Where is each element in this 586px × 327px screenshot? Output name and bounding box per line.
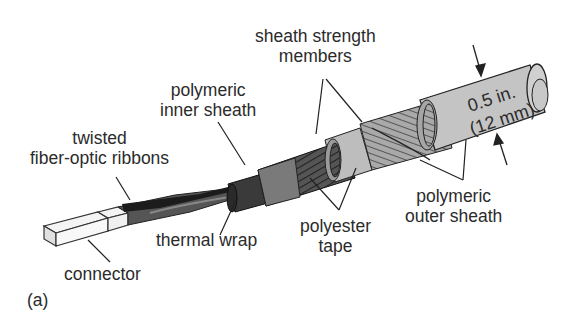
- outer-sheath-shape: 0.5 in. (12 mm): [417, 64, 548, 150]
- label-twisted-ribbons: twisted fiber-optic ribbons: [30, 128, 169, 168]
- label-thermal-wrap: thermal wrap: [156, 230, 257, 250]
- label-polymeric-inner-sheath: polymeric inner sheath: [160, 80, 256, 120]
- twisted-ribbons-shape: [118, 186, 236, 225]
- label-sheath-strength-members: sheath strength members: [255, 26, 376, 66]
- label-connector: connector: [64, 264, 141, 284]
- panel-label: (a): [27, 290, 48, 311]
- connector-shape: [44, 207, 128, 246]
- label-polyester-tape: polyester tape: [300, 216, 371, 256]
- label-polymeric-outer-sheath: polymeric outer sheath: [405, 186, 502, 226]
